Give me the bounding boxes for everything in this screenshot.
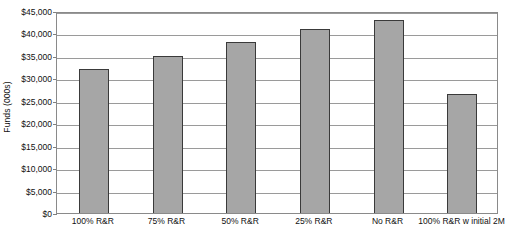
gridline — [57, 193, 497, 194]
bar[interactable] — [447, 94, 477, 213]
bar[interactable] — [300, 29, 330, 213]
x-axis-tick-label: 100% R&R w initial 2M — [418, 216, 504, 227]
gridline — [57, 170, 497, 171]
y-axis-tick-label: $30,000 — [10, 75, 52, 84]
gridline — [57, 148, 497, 149]
bar[interactable] — [374, 20, 404, 213]
gridline — [57, 80, 497, 81]
y-axis-tick-label: $5,000 — [10, 187, 52, 196]
gridline — [57, 35, 497, 36]
y-axis-tick-label: $40,000 — [10, 30, 52, 39]
y-axis-tick-label: $35,000 — [10, 52, 52, 61]
bar[interactable] — [226, 42, 256, 213]
gridline — [57, 103, 497, 104]
bar[interactable] — [153, 56, 183, 213]
plot-area — [56, 12, 498, 214]
bar[interactable] — [79, 69, 109, 213]
y-axis-tick-label: $20,000 — [10, 120, 52, 129]
gridline — [57, 13, 497, 14]
y-axis-tick-label: $25,000 — [10, 97, 52, 106]
gridline — [57, 125, 497, 126]
y-axis-tick-label: $45,000 — [10, 8, 52, 17]
y-axis-tick-label: $0 — [10, 210, 52, 219]
bar-chart: Funds (000s) $0$5,000$10,000$15,000$20,0… — [0, 0, 515, 243]
y-axis-tick-labels: $0$5,000$10,000$15,000$20,000$25,000$30,… — [10, 0, 52, 243]
x-axis-tick-labels: 100% R&R75% R&R50% R&R25% R&RNo R&R100% … — [56, 215, 498, 233]
gridline — [57, 58, 497, 59]
y-axis-tick-label: $10,000 — [10, 165, 52, 174]
y-axis-tick-label: $15,000 — [10, 142, 52, 151]
